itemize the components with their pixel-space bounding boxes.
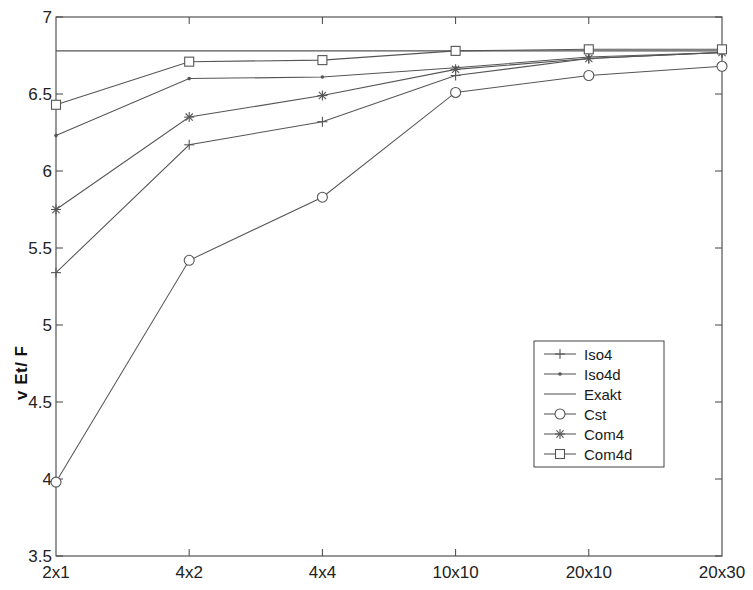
data-point-iso4d <box>187 77 191 81</box>
legend-label: Cst <box>584 406 607 423</box>
data-point-cst <box>184 255 194 265</box>
x-tick-label: 10x10 <box>432 563 478 583</box>
data-point-com4d <box>318 56 327 65</box>
series-line-iso4d <box>56 52 722 135</box>
data-point-com4d <box>451 46 460 55</box>
data-point-com4d <box>718 45 727 54</box>
x-tick-label: 20x10 <box>566 563 612 583</box>
plot-canvas: Iso4Iso4dExaktCstCom4Com4d <box>0 0 753 590</box>
data-point-com4 <box>184 112 194 122</box>
data-point-iso4d <box>321 75 325 79</box>
x-tick-label: 4x4 <box>309 563 336 583</box>
data-point-com4 <box>51 205 61 215</box>
legend-label: Exakt <box>584 386 622 403</box>
data-point-cst <box>451 87 461 97</box>
series-line-com4d <box>56 49 722 104</box>
data-point-com4 <box>584 54 594 64</box>
legend-label: Com4 <box>584 426 624 443</box>
legend-sample-marker <box>558 372 562 376</box>
legend-sample-marker <box>555 409 565 419</box>
legend-label: Com4d <box>584 446 632 463</box>
legend-label: Iso4 <box>584 346 612 363</box>
series-line-com4 <box>56 52 722 209</box>
data-point-com4 <box>317 91 327 101</box>
data-point-cst <box>317 192 327 202</box>
data-point-cst <box>584 71 594 81</box>
data-point-iso4 <box>317 117 327 127</box>
data-point-cst <box>51 477 61 487</box>
data-point-com4 <box>451 64 461 74</box>
x-tick-label: 2x1 <box>42 563 69 583</box>
x-tick-label: 4x2 <box>175 563 202 583</box>
x-tick-label: 20x30 <box>699 563 745 583</box>
plot-frame <box>56 17 722 556</box>
data-point-com4d <box>52 100 61 109</box>
legend-label: Iso4d <box>584 366 621 383</box>
series-line-iso4 <box>56 52 722 272</box>
legend: Iso4Iso4dExaktCstCom4Com4d <box>534 341 664 467</box>
data-point-com4d <box>185 57 194 66</box>
data-point-cst <box>717 61 727 71</box>
data-point-com4d <box>584 45 593 54</box>
chart-root: v Et/ F 3.544.555.566.57 Iso4Iso4dExaktC… <box>0 0 753 590</box>
data-point-iso4d <box>54 134 58 138</box>
legend-sample-marker <box>556 450 565 459</box>
legend-sample-marker <box>555 429 565 439</box>
